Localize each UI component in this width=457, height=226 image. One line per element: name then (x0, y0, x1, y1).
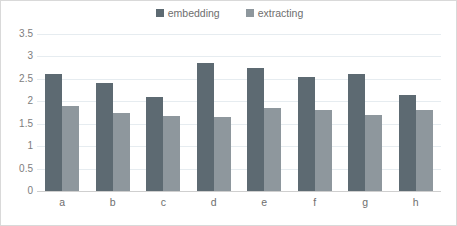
x-tick-label: e (239, 197, 290, 208)
legend-item-extracting[interactable]: extracting (246, 8, 304, 19)
bar-embedding-e[interactable] (247, 68, 264, 191)
bar-embedding-h[interactable] (399, 95, 416, 191)
bar-group (37, 34, 88, 191)
bar-extracting-f[interactable] (315, 110, 332, 191)
bar-embedding-a[interactable] (45, 74, 62, 191)
legend-label-extracting: extracting (258, 8, 304, 19)
bar-embedding-d[interactable] (197, 63, 214, 191)
y-tick-label: 3 (7, 51, 33, 61)
bar-extracting-g[interactable] (365, 115, 382, 191)
bar-group (290, 34, 341, 191)
bar-embedding-c[interactable] (146, 97, 163, 191)
y-tick-label: 2 (7, 96, 33, 106)
x-tick-label: f (290, 197, 341, 208)
bar-group (138, 34, 189, 191)
bar-extracting-d[interactable] (214, 117, 231, 191)
y-tick-label: 2.5 (7, 74, 33, 84)
plot-area (37, 34, 441, 191)
bar-group (189, 34, 240, 191)
bar-group (340, 34, 391, 191)
y-axis-tick-labels: 00.511.522.533.5 (5, 34, 33, 191)
x-tick-label: h (391, 197, 442, 208)
y-tick-label: 0 (7, 186, 33, 196)
bar-group (391, 34, 442, 191)
legend-swatch-icon (246, 9, 254, 17)
y-tick-label: 0.5 (7, 164, 33, 174)
bar-group (88, 34, 139, 191)
x-tick-label: b (88, 197, 139, 208)
bar-group (239, 34, 290, 191)
y-tick-label: 1.5 (7, 119, 33, 129)
bar-embedding-g[interactable] (348, 74, 365, 191)
y-tick-label: 1 (7, 141, 33, 151)
x-tick-label: a (37, 197, 88, 208)
bar-chart-figure: embedding extracting 00.511.522.533.5 ab… (0, 0, 457, 226)
bar-extracting-h[interactable] (416, 110, 433, 191)
legend-label-embedding: embedding (168, 8, 220, 19)
x-tick-label: g (340, 197, 391, 208)
bar-groups (37, 34, 441, 191)
legend-swatch-icon (156, 9, 164, 17)
bar-embedding-f[interactable] (298, 77, 315, 191)
x-axis-tick-labels: abcdefgh (37, 197, 441, 217)
bar-extracting-b[interactable] (113, 113, 130, 192)
x-tick-label: c (138, 197, 189, 208)
bar-extracting-e[interactable] (264, 108, 281, 191)
bar-extracting-a[interactable] (62, 106, 79, 191)
legend-item-embedding[interactable]: embedding (156, 8, 220, 19)
y-tick-label: 3.5 (7, 29, 33, 39)
gridline (37, 191, 441, 192)
bar-extracting-c[interactable] (163, 116, 180, 191)
x-tick-label: d (189, 197, 240, 208)
bar-embedding-b[interactable] (96, 83, 113, 191)
chart-legend: embedding extracting (1, 5, 457, 21)
